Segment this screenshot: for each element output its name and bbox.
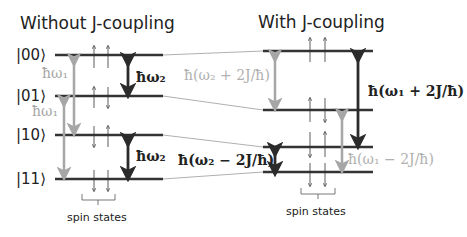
left-spin-arrows xyxy=(94,46,108,191)
ket-11: |11⟩ xyxy=(16,170,46,188)
right-spin-bracket xyxy=(301,188,335,199)
label-w2-bottom: ħω₂ xyxy=(136,148,166,164)
right-spin-arrows xyxy=(310,38,325,186)
energy-level-diagram: Without J-coupling With J-coupling |00⟩ … xyxy=(0,0,467,237)
label-w1-bottom: ħω₁ xyxy=(32,103,58,119)
left-title: Without J-coupling xyxy=(20,13,175,33)
label-w2-plus: ħ(ω₂ + 2J/ħ) xyxy=(184,67,270,83)
label-w1-top: ħω₁ xyxy=(42,65,68,81)
ket-10: |10⟩ xyxy=(16,126,46,144)
right-spin-label: spin states xyxy=(286,205,346,218)
label-w2-top: ħω₂ xyxy=(136,69,166,85)
label-w1-minus: ħ(ω₁ − 2J/ħ) xyxy=(348,151,434,167)
ket-00: |00⟩ xyxy=(16,46,46,64)
left-spin-bracket xyxy=(82,194,115,205)
label-w1-plus: ħ(ω₁ + 2J/ħ) xyxy=(368,83,464,99)
left-spin-label: spin states xyxy=(67,211,127,224)
right-title: With J-coupling xyxy=(258,12,385,32)
label-w2-minus: ħ(ω₂ − 2J/ħ) xyxy=(178,152,274,168)
